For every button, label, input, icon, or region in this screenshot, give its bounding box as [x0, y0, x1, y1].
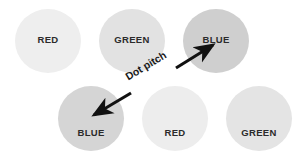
phosphor-dot-red-bottom: RED [142, 86, 208, 151]
phosphor-dot-label: RED [165, 127, 186, 138]
phosphor-dot-label: BLUE [77, 127, 104, 138]
phosphor-dot-blue-bottom: BLUE [58, 86, 124, 151]
phosphor-dot-label: GREEN [114, 34, 149, 45]
phosphor-dot-label: GREEN [241, 127, 276, 138]
phosphor-dot-blue-top: BLUE [183, 9, 249, 73]
phosphor-dot-label: RED [38, 34, 59, 45]
phosphor-dot-label: BLUE [202, 34, 229, 45]
phosphor-dot-red-top: RED [15, 9, 81, 73]
dot-pitch-diagram: RED GREEN BLUE BLUE RED GREEN Dot pitch [0, 0, 305, 163]
phosphor-dot-green-bottom: GREEN [226, 86, 292, 151]
